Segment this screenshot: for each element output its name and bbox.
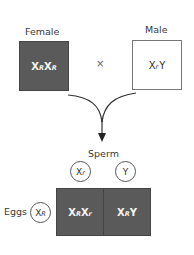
eggs-label: Eggs [4,206,27,217]
allele-base: Y [130,207,137,218]
sperm-gamete-y: Y [115,161,136,182]
allele-base: X [68,207,76,218]
offspring-cell-xR-xr: XR Xr [56,188,104,236]
allele-base: X [81,207,89,218]
allele-base: X [117,207,125,218]
allele-base: Y [123,167,129,177]
sperm-gamete-xr: Xr [70,161,91,182]
sperm-label: Sperm [88,148,119,159]
egg-gamete-xR: XR [30,202,51,223]
offspring-cell-xR-y: XR Y [103,188,151,236]
